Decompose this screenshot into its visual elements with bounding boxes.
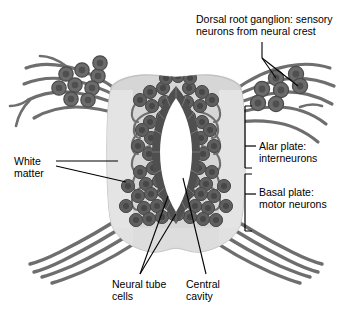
label-cav-line2: cavity — [186, 290, 213, 302]
label-cav-line1: Central — [186, 278, 220, 290]
label-drg-line1: Dorsal root ganglion: sensory — [196, 13, 333, 25]
bracket-basal-plate — [245, 174, 256, 231]
label-basal-line2: motor neurons — [259, 198, 327, 210]
label-white-matter: White matter — [14, 155, 44, 180]
label-drg-line2: neurons from neural crest — [196, 25, 316, 37]
neural-tube-cell-layer — [0, 0, 200, 224]
label-basal-line1: Basal plate: — [259, 186, 314, 198]
label-white-line1: White — [14, 155, 41, 167]
label-ntc-line1: Neural tube — [112, 278, 166, 290]
label-ntc-line2: cells — [112, 290, 133, 302]
label-alar-plate: Alar plate: interneurons — [259, 140, 317, 165]
label-basal-plate: Basal plate: motor neurons — [259, 186, 327, 211]
label-neural-tube-cells: Neural tube cells — [112, 278, 166, 303]
ganglion-cells-right — [250, 66, 307, 111]
label-alar-line2: interneurons — [259, 152, 317, 164]
label-dorsal-root-ganglion: Dorsal root ganglion: sensory neurons fr… — [196, 13, 333, 38]
label-alar-line1: Alar plate: — [259, 140, 306, 152]
figure-canvas: Dorsal root ganglion: sensory neurons fr… — [0, 0, 352, 317]
label-central-cavity: Central cavity — [186, 278, 220, 303]
bracket-alar-plate — [245, 106, 256, 168]
label-white-line2: matter — [14, 167, 44, 179]
